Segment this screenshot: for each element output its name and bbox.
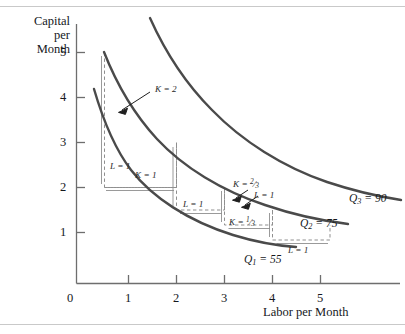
isoquant-label-q1: Q1 = 55 — [244, 253, 281, 267]
isoquant-label-q3: Q3 = 90 — [349, 192, 386, 206]
x-tick-1: 1 — [125, 291, 131, 306]
annotation-k-1: K = 1 — [135, 170, 157, 180]
x-axis-ticks — [129, 275, 321, 284]
x-tick-2: 2 — [173, 291, 179, 306]
x-tick-5: 5 — [317, 291, 323, 306]
isoquant-label-q2: Q2 = 75 — [300, 217, 337, 231]
isoquant-label-q2-value: = 75 — [312, 217, 337, 229]
step-brackets — [102, 56, 329, 244]
x-tick-3: 3 — [221, 291, 227, 306]
annotation-k-two-thirds-lead: K = — [233, 179, 250, 189]
y-tick-5: 5 — [60, 45, 66, 60]
annotation-l-1-a: L = 1 — [110, 161, 130, 171]
annotation-k-two-thirds: K = 2⁄3 — [233, 177, 259, 190]
y-tick-1: 1 — [60, 225, 66, 240]
annotation-k-2: K = 2 — [155, 84, 177, 94]
annotation-k-one-third: K = 1⁄3 — [229, 215, 255, 228]
x-tick-4: 4 — [269, 291, 275, 306]
x-axis-title: Labor per Month — [263, 306, 348, 319]
y-axis-title-line1: Capital — [6, 14, 70, 28]
isoquant-label-q3-value: = 90 — [361, 192, 386, 204]
annotation-l-1-b: L = 1 — [183, 199, 203, 209]
fraction-one-third: 1⁄3 — [246, 215, 255, 228]
y-tick-2: 2 — [60, 180, 66, 195]
fraction-two-thirds: 2⁄3 — [250, 177, 259, 190]
y-axis-ticks — [77, 53, 86, 233]
curve-q3 — [150, 18, 401, 200]
isoquant-label-q1-value: = 55 — [256, 253, 281, 265]
annotation-l-1-d: L = 1 — [288, 245, 308, 255]
annotation-k-one-third-lead: K = — [229, 217, 246, 227]
origin-label: 0 — [67, 291, 73, 306]
step-guides — [105, 53, 331, 241]
isoquant-curves — [94, 18, 401, 247]
annotation-l-1-c: L = 1 — [254, 190, 274, 200]
y-axis-title-line2: per — [6, 28, 70, 42]
isoquant-figure: Capital per Month 5 4 3 2 1 0 1 2 3 4 5 … — [0, 0, 405, 334]
curve-q2 — [104, 52, 348, 224]
y-tick-4: 4 — [60, 90, 66, 105]
axis-lines — [77, 24, 401, 284]
annotation-arrows — [119, 92, 259, 209]
y-tick-3: 3 — [60, 135, 66, 150]
